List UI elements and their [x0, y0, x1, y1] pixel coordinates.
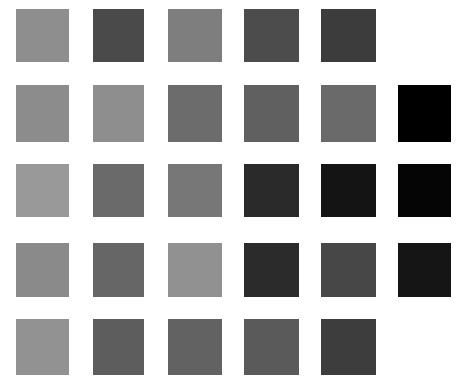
gray-swatch-r1-c2 — [93, 9, 144, 62]
gray-swatch-r4-c1 — [16, 243, 69, 297]
gray-swatch-r3-c6 — [398, 164, 451, 217]
gray-swatch-r3-c4 — [244, 164, 299, 217]
gray-swatch-r3-c1 — [16, 164, 69, 217]
gray-swatch-r2-c2 — [93, 85, 144, 142]
gray-swatch-r5-c2 — [93, 319, 144, 375]
gray-swatch-r4-c3 — [168, 243, 222, 297]
gray-swatch-r2-c3 — [168, 85, 222, 142]
gray-swatch-r5-c5 — [321, 319, 376, 375]
gray-swatch-r1-c4 — [244, 9, 299, 62]
gray-swatch-r1-c5 — [321, 9, 376, 62]
gray-swatch-r4-c2 — [93, 243, 144, 297]
gray-swatch-r3-c2 — [93, 164, 144, 217]
gray-swatch-r3-c3 — [168, 164, 222, 217]
gray-swatch-r4-c4 — [244, 243, 299, 297]
gray-swatch-r4-c6 — [398, 243, 451, 297]
gray-swatch-r2-c4 — [244, 85, 299, 142]
gray-swatch-r1-c1 — [16, 9, 69, 62]
gray-swatch-r3-c5 — [321, 164, 376, 217]
gray-swatch-r5-c1 — [16, 319, 69, 375]
gray-swatch-r5-c3 — [168, 319, 222, 375]
gray-swatch-r4-c5 — [321, 243, 376, 297]
gray-swatch-r2-c5 — [321, 85, 376, 142]
gray-swatch-r1-c3 — [168, 9, 222, 62]
gray-swatch-r2-c1 — [16, 85, 69, 142]
gray-swatch-r2-c6 — [398, 85, 451, 142]
gray-swatch-r5-c4 — [244, 319, 299, 375]
